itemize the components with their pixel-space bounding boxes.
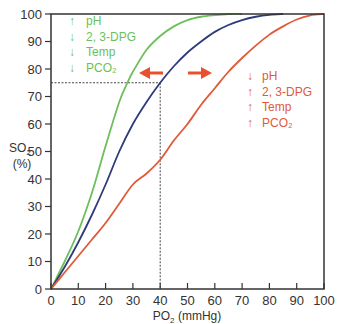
- y-tick-label: 80: [28, 62, 42, 77]
- left-shift-label: Temp: [86, 45, 116, 59]
- x-tick-label: 70: [235, 293, 249, 308]
- y-tick-label: 100: [20, 7, 42, 22]
- y-tick-label: 10: [28, 254, 42, 269]
- shift-right-arrow-icon: [201, 67, 212, 79]
- left-shift-arrow: ↓: [69, 30, 75, 44]
- left-shift-label: PCO₂: [86, 61, 117, 75]
- y-tick-label: 40: [28, 172, 42, 187]
- right-shift-label: pH: [262, 69, 277, 83]
- y-tick-label: 0: [35, 282, 42, 297]
- x-tick-label: 50: [180, 293, 194, 308]
- x-tick-label: 20: [98, 293, 112, 308]
- x-tick-label: 100: [313, 293, 335, 308]
- x-tick-label: 80: [262, 293, 276, 308]
- left-shift-arrow: ↓: [69, 61, 75, 75]
- x-tick-label: 0: [47, 293, 54, 308]
- right-shift-arrow: ↑: [247, 100, 253, 114]
- y-tick-label: 90: [28, 34, 42, 49]
- y-tick-label: 30: [28, 199, 42, 214]
- right-shift-label: 2, 3-DPG: [262, 85, 312, 99]
- right-shift-arrow: ↓: [247, 69, 253, 83]
- x-tick-label: 90: [289, 293, 303, 308]
- right-shift-arrow: ↑: [247, 85, 253, 99]
- left-shift-arrow: ↑: [69, 14, 75, 28]
- right-shift-label: Temp: [262, 100, 292, 114]
- y-tick-label: 60: [28, 117, 42, 132]
- left-shift-arrow: ↓: [69, 45, 75, 59]
- x-tick-label: 10: [71, 293, 85, 308]
- right-shift-arrow: ↑: [247, 116, 253, 130]
- oxygen-dissociation-chart: 0102030405060708090100 01020304050607080…: [0, 0, 339, 324]
- y-tick-label: 20: [28, 227, 42, 242]
- x-tick-label: 40: [153, 293, 167, 308]
- x-axis-ticks: 0102030405060708090100: [47, 283, 334, 308]
- x-tick-label: 60: [208, 293, 222, 308]
- x-tick-label: 30: [126, 293, 140, 308]
- x-axis-title: PO2 (mmHg): [153, 309, 221, 324]
- y-tick-label: 70: [28, 89, 42, 104]
- left-shift-label: 2, 3-DPG: [86, 30, 136, 44]
- shift-left-arrow-icon: [139, 67, 150, 79]
- left-shift-curve: [51, 14, 242, 289]
- right-shift-label: PCO₂: [262, 116, 293, 130]
- left-shift-label: pH: [86, 14, 101, 28]
- y-axis-unit: (%): [13, 157, 32, 171]
